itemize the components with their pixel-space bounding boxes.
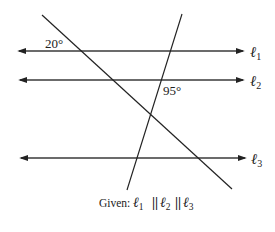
line-label-l1: ℓ1 <box>250 44 261 62</box>
parallel-symbol-2: || <box>175 195 181 210</box>
transversal-diagonal <box>42 15 232 189</box>
given-l3: ℓ3 <box>183 195 194 212</box>
line-label-l3: ℓ3 <box>251 151 262 169</box>
given-prefix: Given: <box>99 197 130 209</box>
parallel-lines-diagram: 20° 95° ℓ1 ℓ2 ℓ3 Given: ℓ1 || ℓ2 || ℓ3 <box>0 0 275 232</box>
given-l2: ℓ2 <box>160 195 171 212</box>
line-label-l2: ℓ2 <box>250 73 261 91</box>
angle-label-20: 20° <box>45 36 63 51</box>
transversal-steep <box>127 14 182 190</box>
angle-label-95: 95° <box>163 83 181 98</box>
given-l1: ℓ1 <box>133 195 144 212</box>
given-caption: Given: ℓ1 || ℓ2 || ℓ3 <box>99 195 194 212</box>
parallel-symbol-1: || <box>152 195 158 210</box>
